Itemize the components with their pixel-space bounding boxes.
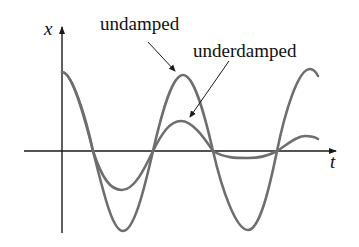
y-axis-label: x (43, 18, 53, 39)
undamped-pointer-arrow (148, 42, 175, 71)
underdamped-curve (62, 72, 318, 190)
oscillation-diagram: x t undamped underdamped (0, 0, 359, 247)
t-axis-label: t (330, 151, 336, 172)
underdamped-label: underdamped (193, 40, 297, 61)
undamped-label: undamped (100, 13, 180, 34)
